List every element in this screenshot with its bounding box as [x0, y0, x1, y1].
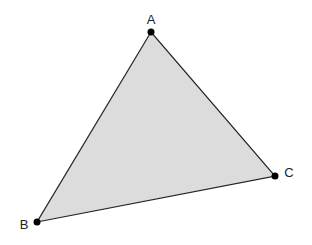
vertex-b-label: B [20, 217, 29, 232]
vertex-a-point [148, 29, 155, 36]
triangle-diagram: A B C [0, 0, 312, 245]
vertex-c-point [272, 173, 279, 180]
vertex-c-label: C [284, 165, 293, 180]
vertex-b-point [34, 219, 41, 226]
triangle-abc [37, 32, 275, 222]
vertex-a-label: A [147, 12, 156, 27]
